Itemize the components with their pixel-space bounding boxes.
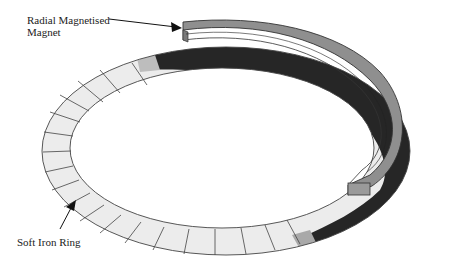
magnet-label: Radial Magnetised Magnet	[27, 14, 110, 38]
magnet-label-line1: Radial Magnetised	[27, 14, 110, 26]
ring-label: Soft Iron Ring	[17, 236, 81, 248]
diagram-canvas	[0, 0, 453, 267]
magnet-end-face	[348, 183, 370, 195]
soft-iron-ring	[0, 0, 453, 267]
magnet-label-line2: Magnet	[27, 26, 110, 38]
